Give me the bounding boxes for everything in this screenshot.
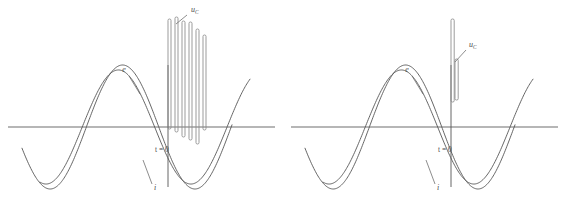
leader-line-i	[143, 160, 152, 184]
capacitor-voltage-label: uC	[469, 40, 477, 50]
waveform-figure: eit = 0uC eit = 0uC	[0, 0, 566, 213]
right-waveform-panel: eit = 0uC	[283, 0, 566, 213]
voltage-pulse-4	[189, 22, 192, 140]
leader-line-capacitor-voltage	[455, 50, 466, 62]
curve-label-i: i	[154, 183, 156, 192]
voltage-pulse-1	[451, 19, 454, 102]
time-zero-label: t = 0	[155, 145, 169, 154]
left-waveform-panel: eit = 0uC	[0, 0, 283, 213]
curve-label-i: i	[437, 183, 439, 192]
voltage-pulse-3	[182, 21, 185, 137]
voltage-pulse-6	[203, 35, 206, 130]
time-zero-label: t = 0	[438, 145, 452, 154]
capacitor-voltage-pulse-train	[451, 19, 458, 102]
leader-line-i	[426, 160, 435, 184]
capacitor-voltage-label: uC	[191, 5, 199, 15]
capacitor-voltage-pulse-train	[168, 17, 206, 144]
voltage-pulse-2	[455, 59, 458, 100]
voltage-pulse-2	[175, 17, 178, 132]
